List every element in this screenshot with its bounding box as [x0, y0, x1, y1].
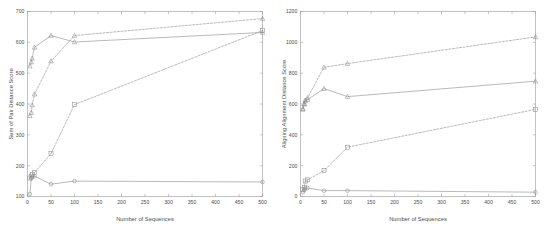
series-line — [303, 188, 536, 192]
series-line — [30, 176, 263, 194]
x-axis-tick-label: 250 — [141, 199, 150, 205]
y-axis-title: Aligning Alignment Distance Score — [281, 60, 287, 149]
x-axis-tick-label: 200 — [117, 199, 126, 205]
plot-frame — [28, 12, 263, 197]
x-axis-tick-label: 50 — [321, 199, 327, 205]
y-axis-tick-label: 0 — [294, 193, 297, 199]
data-series — [301, 107, 538, 191]
x-axis-tick-label: 500 — [531, 199, 540, 205]
plot-frame — [301, 12, 536, 197]
y-axis-tick-label: 1200 — [286, 8, 297, 14]
figure-container: 0501001502002503003504004505001002003004… — [0, 0, 546, 234]
x-axis-tick-label: 200 — [390, 199, 399, 205]
y-axis-tick-label: 800 — [289, 70, 298, 76]
series-line — [30, 32, 263, 66]
y-axis-tick-label: 500 — [16, 70, 25, 76]
y-axis-tick-label: 100 — [16, 193, 25, 199]
y-axis-tick-label: 700 — [16, 8, 25, 14]
y-axis-tick-label: 200 — [289, 163, 298, 169]
series-line — [30, 19, 263, 116]
chart-panel-left: 0501001502002503003504004505001002003004… — [0, 0, 273, 234]
series-line — [30, 31, 263, 178]
x-axis-tick-label: 400 — [211, 199, 220, 205]
data-series — [301, 186, 537, 194]
x-axis-title: Number of Sequences — [389, 216, 447, 222]
data-series — [28, 30, 265, 68]
y-axis-tick-label: 600 — [289, 101, 298, 107]
data-series — [301, 35, 538, 111]
data-series — [28, 29, 265, 180]
chart-svg-right: 0501001502002503003504004505000200400600… — [273, 0, 546, 234]
x-axis-tick-label: 250 — [414, 199, 423, 205]
data-series — [28, 174, 264, 196]
x-axis-tick-label: 150 — [367, 199, 376, 205]
y-axis-tick-label: 600 — [16, 39, 25, 45]
x-axis-tick-label: 0 — [299, 199, 302, 205]
x-axis-tick-label: 450 — [508, 199, 517, 205]
x-axis-tick-label: 300 — [437, 199, 446, 205]
x-axis-tick-label: 150 — [94, 199, 103, 205]
series-line — [303, 37, 536, 109]
data-series — [28, 16, 265, 117]
y-axis-tick-label: 300 — [16, 132, 25, 138]
chart-svg-left: 0501001502002503003504004505001002003004… — [0, 0, 273, 234]
x-axis-tick-label: 100 — [343, 199, 352, 205]
x-axis-tick-label: 450 — [235, 199, 244, 205]
x-axis-tick-label: 350 — [461, 199, 470, 205]
y-axis-tick-label: 400 — [16, 101, 25, 107]
series-line — [303, 109, 536, 189]
x-axis-tick-label: 400 — [484, 199, 493, 205]
data-series — [301, 79, 538, 111]
x-axis-tick-label: 500 — [258, 199, 267, 205]
chart-panel-right: 0501001502002503003504004505000200400600… — [273, 0, 546, 234]
y-axis-title: Sum of Pair Distance Score — [8, 68, 14, 139]
y-axis-tick-label: 200 — [16, 163, 25, 169]
x-axis-tick-label: 50 — [48, 199, 54, 205]
x-axis-tick-label: 350 — [188, 199, 197, 205]
x-axis-tick-label: 100 — [70, 199, 79, 205]
y-axis-tick-label: 1000 — [286, 39, 297, 45]
series-line — [303, 81, 536, 109]
x-axis-title: Number of Sequences — [116, 216, 174, 222]
y-axis-tick-label: 400 — [289, 132, 298, 138]
x-axis-tick-label: 0 — [26, 199, 29, 205]
x-axis-tick-label: 300 — [164, 199, 173, 205]
